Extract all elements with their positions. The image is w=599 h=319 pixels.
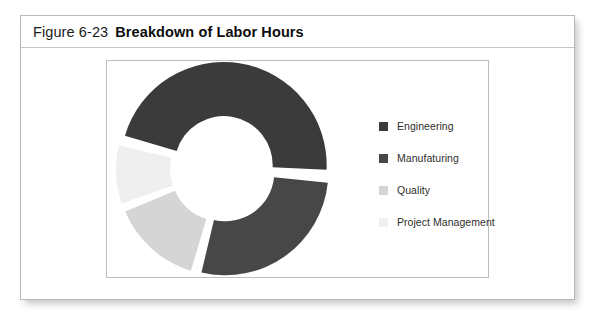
figure-caption-number: Figure 6-23 [33,24,108,40]
figure-caption-title: Breakdown of Labor Hours [115,24,304,40]
legend-item-manufaturing[interactable]: Manufaturing [379,151,489,166]
donut-slice[interactable] [116,145,173,203]
figure-frame: Figure 6-23 Breakdown of Labor Hours Eng… [20,15,575,300]
chart-legend: Engineering Manufaturing Quality Project… [379,119,489,230]
legend-swatch-icon [379,154,388,163]
legend-item-engineering[interactable]: Engineering [379,119,489,134]
donut-slice[interactable] [125,62,327,170]
legend-label: Project Management [397,217,495,228]
legend-label: Engineering [397,121,454,132]
legend-item-project-management[interactable]: Project Management [379,215,489,230]
legend-swatch-icon [379,122,388,131]
legend-swatch-icon [379,218,388,227]
legend-label: Quality [397,185,430,196]
donut-chart [107,61,339,277]
legend-item-quality[interactable]: Quality [379,183,489,198]
donut-slice[interactable] [201,177,327,275]
donut-slice[interactable] [125,191,206,271]
chart-plot-area: Engineering Manufaturing Quality Project… [106,60,489,278]
legend-swatch-icon [379,186,388,195]
donut-chart-svg [107,61,339,277]
figure-caption-bar: Figure 6-23 Breakdown of Labor Hours [21,16,574,48]
screenshot-root: Figure 6-23 Breakdown of Labor Hours Eng… [0,0,599,319]
legend-label: Manufaturing [397,153,459,164]
